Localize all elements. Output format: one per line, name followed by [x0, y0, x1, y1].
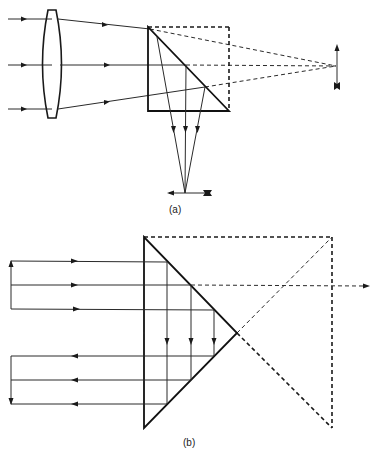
convex-lens — [43, 10, 62, 118]
ray-arrow-icon — [212, 338, 217, 345]
caption-b: (b) — [183, 437, 195, 448]
ray-arrow-icon — [71, 378, 78, 383]
ray-arrow-icon — [195, 126, 200, 133]
ray-arrow-icon — [73, 307, 80, 312]
ray-arrow-icon — [104, 63, 110, 68]
optics-figure: (a) — [0, 0, 375, 452]
incoming-rays-b — [11, 259, 214, 312]
ray-arrow-icon — [171, 126, 176, 133]
ray-arrow-icon — [71, 259, 78, 264]
ray-arrow-icon — [21, 17, 27, 22]
ray-arrow-icon — [71, 354, 78, 359]
ray-arrow-icon — [71, 402, 78, 407]
ray-arrow-icon — [183, 126, 188, 133]
right-angle-prism-a — [148, 27, 229, 111]
real-image-arrow — [167, 190, 212, 196]
ray-arrow-icon — [189, 338, 194, 345]
ray-arrow-icon — [21, 63, 27, 68]
outgoing-rays-b — [11, 354, 214, 407]
virtual-image-arrow — [334, 44, 340, 90]
panel-a: (a) — [8, 10, 340, 215]
dashed-transmitted-ray — [191, 284, 370, 289]
ray-arrow-icon — [21, 107, 27, 112]
ray-arrow-icon — [71, 283, 78, 288]
ray-arrow-icon — [104, 100, 110, 105]
caption-a: (a) — [169, 204, 181, 215]
incoming-rays-a — [8, 17, 52, 112]
panel-b: (b) — [9, 237, 371, 448]
ray-arrow-icon — [363, 284, 370, 289]
ray-arrow-icon — [165, 338, 170, 345]
internal-rays-b — [165, 262, 217, 404]
